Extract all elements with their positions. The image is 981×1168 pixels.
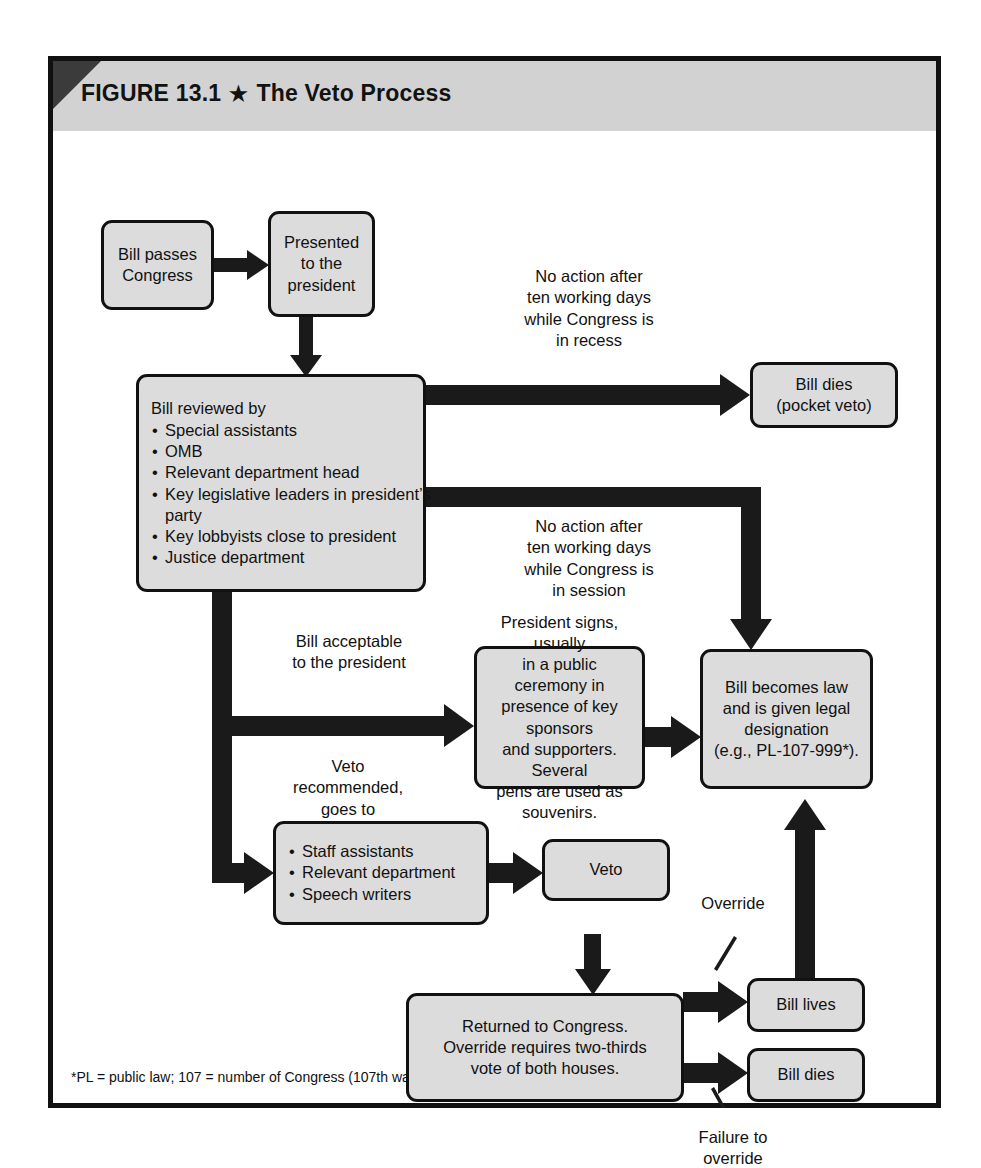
node-line: presence of key sponsors [487, 696, 632, 738]
node-line: Veto [555, 859, 657, 880]
node-line: Bill lives [760, 994, 852, 1015]
label-veto-recommended: Veto recommended, goes to [253, 756, 443, 820]
reviewer-list: Special assistants OMB Relevant departme… [151, 420, 411, 568]
list-item: Special assistants [151, 420, 411, 441]
arrow-returned-to-bill-dies [683, 1052, 748, 1094]
node-line: Presented [281, 232, 362, 253]
node-line: president [281, 275, 362, 296]
list-item: Relevant department head [151, 462, 411, 483]
label-failure-to-override: Failure to override [653, 1127, 813, 1168]
node-line: Bill dies [763, 374, 885, 395]
node-line: to the [281, 253, 362, 274]
flowchart-canvas: Bill passes Congress Presented to the pr… [53, 131, 936, 1108]
node-line: President signs, usually [487, 612, 632, 654]
node-line: (e.g., PL-107-999*). [713, 740, 860, 761]
list-item: Speech writers [288, 884, 474, 905]
list-item: Staff assistants [288, 841, 474, 862]
node-bill-becomes-law[interactable]: Bill becomes law and is given legal desi… [700, 649, 873, 789]
list-item: Justice department [151, 547, 411, 568]
star-icon: ★ [229, 82, 248, 105]
node-line: Returned to Congress. [419, 1016, 671, 1037]
list-item-continuation: party [151, 505, 411, 526]
node-line: Bill dies [760, 1064, 852, 1085]
node-returned-to-congress[interactable]: Returned to Congress. Override requires … [406, 993, 684, 1102]
label-override: Override [668, 893, 798, 914]
node-line: Bill passes [114, 244, 201, 265]
node-line: and is given legal [713, 698, 860, 719]
node-line: pens are used as souvenirs. [487, 781, 632, 823]
label-bill-acceptable: Bill acceptable to the president [243, 631, 455, 674]
node-line: designation [713, 719, 860, 740]
node-line: vote of both houses. [419, 1058, 671, 1079]
arrow-congress-to-president [213, 250, 269, 280]
node-line: in a public ceremony in [487, 654, 632, 696]
list-item: Key lobbyists close to president [151, 526, 411, 547]
node-line: (pocket veto) [763, 395, 885, 416]
node-presented-to-president[interactable]: Presented to the president [268, 211, 375, 317]
node-line: Override requires two-thirds [419, 1037, 671, 1058]
list-item: Key legislative leaders in president’s [151, 484, 411, 505]
node-bill-lives[interactable]: Bill lives [747, 978, 865, 1032]
node-bill-dies[interactable]: Bill dies [747, 1048, 865, 1102]
figure-title-text: The Veto Process [256, 80, 451, 106]
arrow-signs-to-becomes-law [644, 716, 701, 758]
node-line: and supporters. Several [487, 739, 632, 781]
node-bill-passes-congress[interactable]: Bill passes Congress [101, 220, 214, 310]
arrow-president-to-review [290, 317, 322, 377]
arrow-veto-to-returned [575, 934, 611, 995]
arrow-bill-lives-to-becomes-law [784, 799, 826, 984]
node-bill-reviewed-by[interactable]: Bill reviewed by Special assistants OMB … [136, 374, 426, 592]
figure-number: FIGURE 13.1 [81, 80, 221, 106]
list-item: Relevant department [288, 862, 474, 883]
node-heading: Bill reviewed by [151, 398, 411, 419]
list-item: OMB [151, 441, 411, 462]
label-no-action-recess: No action after ten working days while C… [465, 266, 713, 352]
node-staff-assistants[interactable]: Staff assistants Relevant department Spe… [273, 821, 489, 925]
node-line: Bill becomes law [713, 677, 860, 698]
node-line: Congress [114, 265, 201, 286]
arrow-review-to-pocket-veto [423, 374, 750, 416]
figure-frame: FIGURE 13.1★The Veto Process [48, 56, 941, 1108]
arrow-staff-to-veto [488, 852, 543, 894]
arrow-returned-to-bill-lives [683, 981, 748, 1023]
staff-list: Staff assistants Relevant department Spe… [288, 841, 474, 904]
node-president-signs[interactable]: President signs, usually in a public cer… [474, 646, 645, 789]
node-veto[interactable]: Veto [542, 839, 670, 901]
leader-line-override [714, 936, 737, 971]
node-bill-dies-pocket-veto[interactable]: Bill dies (pocket veto) [750, 362, 898, 428]
figure-header: FIGURE 13.1★The Veto Process [53, 61, 936, 131]
figure-title: FIGURE 13.1★The Veto Process [81, 80, 451, 107]
label-no-action-session: No action after ten working days while C… [465, 516, 713, 602]
